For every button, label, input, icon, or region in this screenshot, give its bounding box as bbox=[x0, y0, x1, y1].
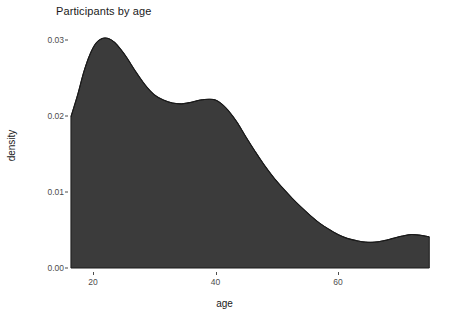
density-area-plot bbox=[0, 0, 449, 321]
density-area-fill bbox=[71, 38, 429, 268]
density-plot-chart: Participants by age density age 0.000.01… bbox=[0, 0, 449, 321]
